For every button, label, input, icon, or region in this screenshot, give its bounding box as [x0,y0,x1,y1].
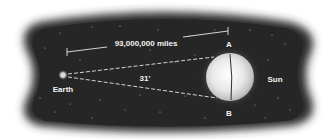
distance-label: 93,000,000 miles [115,39,178,48]
sun [206,53,254,101]
angle-label: 31' [140,74,151,83]
point-a-label: A [226,40,232,49]
earth-label: Earth [53,85,74,94]
earth-sun-distance-diagram: 93,000,000 miles Earth 31' A B Sun [0,0,330,139]
sun-label: Sun [267,75,282,84]
point-b-label: B [226,109,232,118]
earth [61,73,65,77]
